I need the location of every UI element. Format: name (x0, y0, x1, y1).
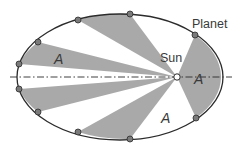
sun-label: Sun (160, 51, 182, 65)
planet-point (193, 115, 199, 121)
equal-area-sectors (19, 14, 221, 139)
planet-point (75, 129, 81, 135)
planet-point (16, 61, 22, 67)
kepler-diagram: Planet Sun A A A (0, 0, 241, 150)
planet-point (35, 109, 41, 115)
sun-icon (174, 74, 180, 80)
planet-label: Planet (192, 17, 228, 31)
area-label-bottom: A (160, 110, 170, 126)
area-label-left: A (53, 51, 63, 67)
planet-point (35, 39, 41, 45)
planet-point (127, 136, 133, 142)
planet-point (127, 11, 133, 17)
planet-point (192, 32, 198, 38)
planet-point (16, 86, 22, 92)
planet-point (75, 17, 81, 23)
area-label-right: A (193, 71, 203, 87)
